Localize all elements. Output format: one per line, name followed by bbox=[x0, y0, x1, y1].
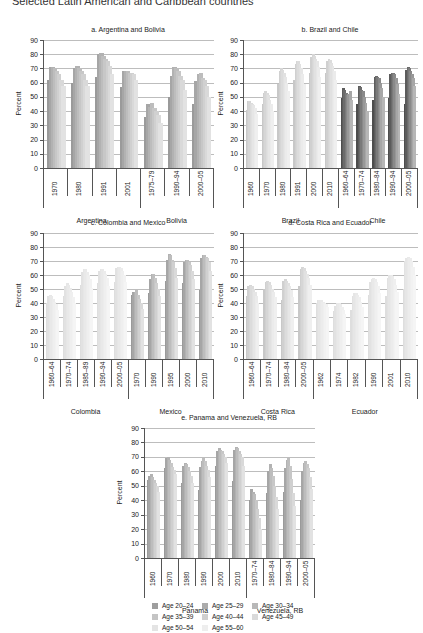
bar bbox=[271, 111, 274, 168]
legend-swatch-icon bbox=[152, 603, 158, 609]
x-tick-label: 1980 bbox=[279, 182, 286, 196]
y-tick-mark bbox=[40, 247, 43, 248]
x-category-divider bbox=[196, 359, 197, 387]
legend-item: Age 45–49 bbox=[252, 613, 293, 620]
x-tick-label: 1991 bbox=[294, 182, 301, 196]
bar bbox=[398, 94, 401, 168]
chart-title: a. Argentina and Bolivia bbox=[43, 26, 213, 33]
legend-label: Age 55–60 bbox=[212, 624, 243, 631]
x-tick-label: 1970–74 bbox=[251, 561, 258, 586]
y-tick-mark bbox=[40, 154, 43, 155]
y-axis-label: Percent bbox=[116, 480, 123, 504]
x-category-divider bbox=[400, 359, 401, 387]
y-tick-mark bbox=[240, 111, 243, 112]
bar bbox=[124, 282, 127, 359]
x-category-divider bbox=[145, 359, 146, 387]
bar-group bbox=[181, 428, 194, 558]
x-tick-label: 2010 bbox=[234, 572, 241, 586]
legend-label: Age 25–29 bbox=[212, 602, 243, 609]
bar bbox=[192, 279, 195, 359]
x-group-divider bbox=[43, 359, 44, 399]
y-tick-mark bbox=[240, 97, 243, 98]
bar bbox=[256, 303, 259, 359]
x-category-divider bbox=[330, 359, 331, 387]
x-category-divider bbox=[280, 558, 281, 586]
x-category-divider bbox=[179, 359, 180, 387]
y-tick-label: 70 bbox=[224, 65, 238, 72]
bar-group bbox=[120, 40, 139, 168]
x-tick-label: 1970–74 bbox=[265, 362, 272, 387]
x-tick-label: 1960–64 bbox=[248, 362, 255, 387]
x-category-divider bbox=[229, 558, 230, 586]
y-tick-label: 80 bbox=[24, 244, 38, 251]
bar bbox=[174, 474, 177, 558]
x-tick-label: 1960–64 bbox=[48, 362, 55, 387]
x-category-divider bbox=[322, 168, 323, 196]
x-tick-label: 2010 bbox=[326, 182, 333, 196]
bar-group bbox=[147, 428, 160, 558]
bar bbox=[73, 303, 76, 359]
y-tick-mark bbox=[141, 471, 144, 472]
y-tick-label: 80 bbox=[24, 51, 38, 58]
bar-group bbox=[262, 40, 274, 168]
bar-group bbox=[97, 233, 110, 359]
y-tick-mark bbox=[141, 486, 144, 487]
chart-title: b. Brazil and Chile bbox=[243, 26, 417, 33]
y-tick-mark bbox=[240, 68, 243, 69]
bar-group bbox=[198, 428, 211, 558]
y-tick-label: 70 bbox=[24, 65, 38, 72]
x-tick-label: 1970 bbox=[166, 572, 173, 586]
x-category-divider bbox=[212, 558, 213, 586]
bar-group bbox=[277, 40, 289, 168]
x-tick-label: 2000 bbox=[310, 182, 317, 196]
y-tick-mark bbox=[141, 428, 144, 429]
bar-group bbox=[144, 40, 163, 168]
x-group-divider bbox=[243, 168, 244, 208]
x-category-divider bbox=[347, 359, 348, 387]
bar-group bbox=[263, 233, 277, 359]
x-category-divider bbox=[162, 359, 163, 387]
y-tick-label: 10 bbox=[24, 342, 38, 349]
y-tick-label: 80 bbox=[125, 439, 139, 446]
y-tick-mark bbox=[141, 442, 144, 443]
bar bbox=[56, 310, 59, 359]
y-tick-label: 50 bbox=[224, 286, 238, 293]
bar bbox=[110, 74, 114, 168]
y-tick-label: 90 bbox=[224, 37, 238, 44]
y-tick-label: 0 bbox=[224, 165, 238, 172]
x-tick-label: 2000–05 bbox=[300, 362, 307, 387]
figure-title: Selected Latin American and Caribbean co… bbox=[12, 0, 254, 7]
bar-group bbox=[293, 40, 305, 168]
chart-panel: a. Argentina and BoliviaPercent010203040… bbox=[12, 22, 219, 222]
y-tick-label: 40 bbox=[224, 108, 238, 115]
y-tick-label: 10 bbox=[125, 540, 139, 547]
x-group-divider bbox=[43, 168, 44, 208]
y-tick-label: 20 bbox=[125, 526, 139, 533]
y-tick-label: 10 bbox=[224, 150, 238, 157]
y-tick-label: 0 bbox=[24, 165, 38, 172]
legend-swatch-icon bbox=[152, 625, 158, 631]
bar-group bbox=[281, 233, 295, 359]
bar bbox=[90, 288, 93, 359]
x-tick-label: 1980–84 bbox=[373, 171, 380, 196]
bar bbox=[310, 489, 313, 558]
y-tick-label: 30 bbox=[125, 511, 139, 518]
y-tick-label: 10 bbox=[24, 150, 38, 157]
bar bbox=[395, 292, 398, 359]
x-category-divider bbox=[260, 359, 261, 387]
y-tick-mark bbox=[240, 275, 243, 276]
bar bbox=[413, 275, 416, 359]
x-group-divider bbox=[243, 359, 244, 399]
bar bbox=[276, 509, 279, 558]
y-tick-label: 70 bbox=[24, 258, 38, 265]
chart-panel: d. Costa Rica and EcuadorPercent01020304… bbox=[214, 215, 423, 415]
bar bbox=[157, 492, 160, 558]
bar-group bbox=[325, 40, 337, 168]
x-tick-label: 2001 bbox=[387, 373, 394, 387]
x-tick-label: 1980 bbox=[75, 182, 82, 196]
y-tick-label: 50 bbox=[24, 93, 38, 100]
x-category-divider bbox=[77, 359, 78, 387]
y-tick-mark bbox=[40, 303, 43, 304]
x-category-divider bbox=[92, 168, 93, 196]
bar bbox=[225, 463, 228, 558]
